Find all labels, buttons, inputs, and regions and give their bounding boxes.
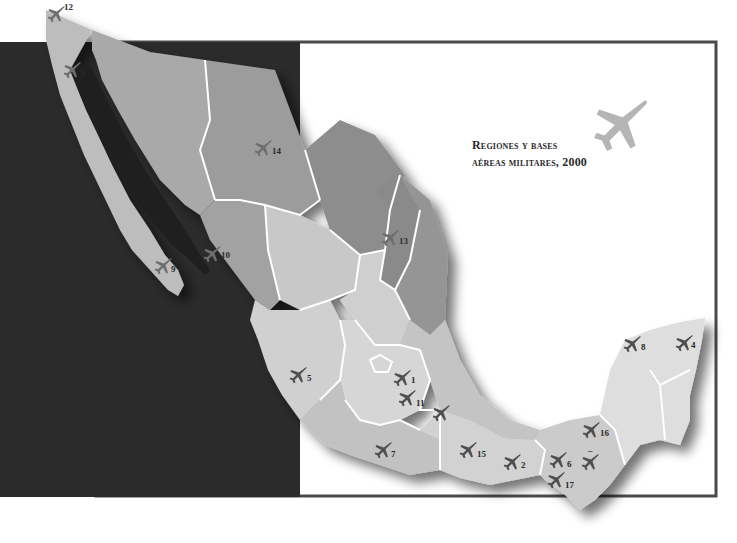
base-number-label: –	[587, 445, 593, 455]
base-number-label: 4	[691, 340, 696, 350]
base-number-label: 16	[600, 428, 610, 438]
map-title-line-2: aéreas militares, 2000	[472, 155, 587, 170]
base-number-label: 1	[411, 375, 416, 385]
base-number-label: 13	[399, 236, 409, 246]
map-title-line-1: Regiones y bases	[472, 138, 557, 153]
base-number-label: 14	[272, 146, 282, 156]
base-number-label: 7	[391, 449, 396, 459]
mexico-map: 12314109138451117152166–17	[0, 0, 737, 543]
base-number-label: 10	[221, 250, 231, 260]
base-number-label: 15	[477, 449, 487, 459]
base-number-label: 2	[521, 460, 526, 470]
base-number-label: 17	[565, 480, 575, 490]
base-number-label: 8	[641, 342, 646, 352]
base-number-label: 6	[567, 459, 572, 469]
base-number-label: 5	[307, 373, 312, 383]
base-number-label: 12	[64, 2, 74, 12]
map-figure: 12314109138451117152166–17 Regiones y ba…	[0, 0, 737, 543]
base-number-label: 11	[416, 398, 425, 408]
base-number-label: 3	[80, 68, 85, 78]
base-number-label: 9	[171, 264, 176, 274]
